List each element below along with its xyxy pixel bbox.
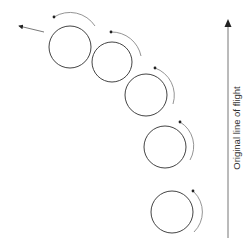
spin-arc-4 [180, 122, 194, 160]
magnus-effect-diagram [0, 0, 252, 242]
spin-arrow-dot-2 [110, 31, 113, 34]
spin-arc-5 [194, 192, 202, 232]
trajectory-arrow [19, 26, 44, 32]
spin-arrow-dot-4 [179, 121, 182, 124]
spin-arrow-dot-1 [53, 16, 56, 19]
ball-4 [144, 121, 194, 168]
ball-5 [151, 190, 202, 233]
ball-1 [49, 12, 95, 68]
arrow-up-icon [225, 19, 232, 27]
spin-arc-2 [111, 32, 141, 56]
spin-arrow-dot-3 [154, 67, 157, 70]
ball-3 [125, 67, 174, 116]
spin-arc-1 [54, 12, 95, 26]
ball-2 [92, 31, 141, 82]
flight-axis-label: Original line of flight [231, 78, 243, 178]
spin-arrow-dot-5 [192, 190, 195, 193]
